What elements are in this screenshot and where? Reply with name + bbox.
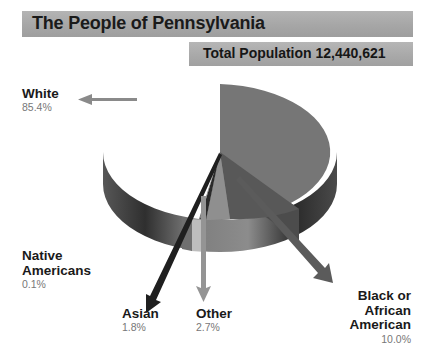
callout-native-pct: 0.1% [22,278,91,291]
callout-other: Other 2.7% [196,306,232,334]
callout-native-name-line2: Americans [22,263,91,278]
callout-asian-pct: 1.8% [122,321,159,334]
callout-black-pct: 10.0% [313,333,411,346]
callout-asian: Asian 1.8% [122,306,159,334]
callout-black-name-line3: American [313,318,411,333]
callout-asian-name: Asian [122,306,159,321]
arrow-white [78,94,137,105]
callout-black-name-line1: Black or [313,289,411,304]
callout-black-name-line2: African [313,304,411,319]
callout-native-name-line1: Native [22,248,91,263]
chart-page: The People of Pennsylvania Total Populat… [0,0,432,357]
callout-other-name: Other [196,306,232,321]
callout-white-pct: 85.4% [22,101,59,114]
callout-white-name: White [22,86,59,101]
callout-native-americans: Native Americans 0.1% [22,248,91,291]
callout-other-pct: 2.7% [196,321,232,334]
callout-white: White 85.4% [22,86,59,114]
callout-black-african-american: Black or African American 10.0% [313,289,411,346]
